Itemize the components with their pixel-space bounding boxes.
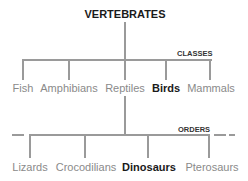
orders-bar: [29, 134, 210, 136]
class-branch-mammals: [209, 59, 211, 80]
order-branch-dinosaurs: [147, 134, 149, 158]
class-branch-birds: [165, 59, 167, 80]
class-branch-amphibians: [68, 59, 70, 80]
classes-bar: [22, 59, 212, 61]
order-lizards: Lizards: [12, 161, 47, 173]
order-branch-crocodilians: [84, 134, 86, 158]
orders-tag: ORDERS: [178, 125, 210, 134]
class-mammals: Mammals: [187, 82, 235, 94]
order-dinosaurs: Dinosaurs: [122, 161, 176, 173]
orders-left-dash: [12, 134, 24, 136]
class-branch-reptiles: [124, 59, 126, 80]
order-crocodilians: Crocodilians: [56, 161, 117, 173]
class-amphibians: Amphibians: [40, 82, 97, 94]
trunk-line: [124, 22, 126, 61]
order-branch-pterosaurs: [208, 134, 210, 158]
orders-right-dash-2: [229, 134, 235, 136]
reptiles-stem: [124, 96, 126, 136]
root-title: VERTEBRATES: [84, 8, 165, 20]
class-reptiles: Reptiles: [105, 82, 145, 94]
order-pterosaurs: Pterosaurs: [185, 161, 238, 173]
class-fish: Fish: [13, 82, 34, 94]
orders-right-dash-1: [214, 134, 226, 136]
order-branch-lizards: [29, 134, 31, 158]
class-branch-fish: [22, 59, 24, 80]
classes-tag: CLASSES: [177, 49, 212, 58]
class-birds: Birds: [152, 82, 180, 94]
